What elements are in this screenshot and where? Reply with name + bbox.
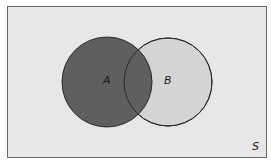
venn-circles [0,0,271,164]
set-a-label: A [103,74,111,87]
universe-label: S [252,140,259,153]
set-b-label: B [164,74,172,87]
